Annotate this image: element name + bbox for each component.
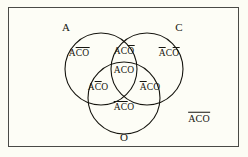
plain-term: CO [147,81,161,92]
set-label-c: C [175,22,183,33]
region-a-and-c-and-o: ACO [114,63,135,75]
plain-term: O [101,81,108,92]
overlined-term: AC [114,101,128,112]
overlined-term: O [172,47,179,58]
set-label-o: O [120,132,128,143]
venn-diagram-figure: ACOACOACOACOACOACOACOACOACO [0,0,248,157]
set-label-a: A [62,22,70,33]
overlined-term: CO [76,47,90,58]
region-a-only: ACO [69,46,90,58]
region-o-only: ACO [114,100,135,112]
region-a-and-c: ACO [114,44,135,56]
plain-term: A [88,81,95,92]
overlined-term: O [127,45,134,56]
plain-term: AC [114,45,128,56]
overlined-term: A [159,47,166,58]
overlined-term: ACO [188,112,210,124]
plain-term: ACO [114,64,135,75]
region-c-and-o: ACO [140,80,161,92]
region-a-and-o: ACO [88,80,109,92]
region-c-only: ACO [159,46,180,58]
region-complement: ACO [188,111,210,124]
plain-term: A [69,47,76,58]
plain-term: O [127,101,134,112]
overlined-term: A [140,81,147,92]
